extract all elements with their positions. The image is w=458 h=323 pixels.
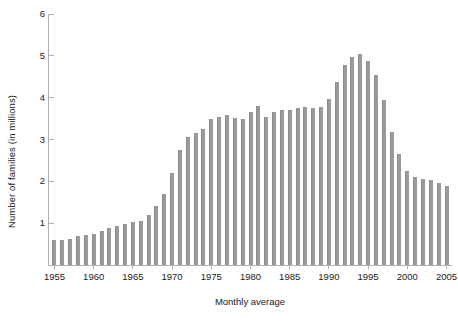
bar-1960 — [92, 234, 96, 265]
bar-1964 — [123, 224, 127, 265]
x-tick-label: 2000 — [387, 271, 427, 282]
x-tick-mark — [250, 265, 251, 269]
y-tick-label: 2 — [23, 175, 45, 187]
bar-1965 — [131, 222, 135, 265]
x-tick-mark — [93, 265, 94, 269]
bar-1989 — [319, 107, 323, 265]
bar-2005 — [445, 186, 449, 265]
x-tick-mark — [368, 265, 369, 269]
bar-1998 — [390, 132, 394, 265]
y-axis-title: Number of families (in millions) — [0, 0, 22, 323]
y-tick-label: 1 — [23, 217, 45, 229]
bar-series — [49, 14, 452, 265]
bar-2004 — [437, 183, 441, 265]
bar-1981 — [256, 106, 260, 265]
bar-2002 — [421, 179, 425, 265]
bar-1961 — [100, 231, 104, 265]
bar-1958 — [76, 236, 80, 265]
bar-2001 — [413, 177, 417, 265]
bar-1971 — [178, 150, 182, 265]
x-tick-label: 2005 — [427, 271, 458, 282]
bar-1970 — [170, 173, 174, 265]
bar-1993 — [350, 57, 354, 265]
plot-area: 123456 — [48, 14, 452, 266]
bar-1980 — [249, 112, 253, 265]
x-tick-mark — [54, 265, 55, 269]
x-tick-mark — [289, 265, 290, 269]
bar-1988 — [311, 108, 315, 265]
bar-1991 — [335, 82, 339, 265]
bar-1983 — [272, 112, 276, 265]
x-tick-label: 1965 — [113, 271, 153, 282]
bar-1982 — [264, 117, 268, 266]
x-tick-mark — [211, 265, 212, 269]
x-tick-mark — [446, 265, 447, 269]
bar-1962 — [107, 228, 111, 265]
x-tick-label: 1955 — [34, 271, 74, 282]
bar-2003 — [429, 180, 433, 265]
bar-1973 — [194, 133, 198, 265]
x-tick-label: 1960 — [74, 271, 114, 282]
x-tick-mark — [328, 265, 329, 269]
bar-1978 — [233, 118, 237, 265]
x-axis-ticks: 1955196019651970197519801985199019952000… — [48, 266, 452, 286]
bar-1995 — [366, 61, 370, 265]
bar-1997 — [382, 100, 386, 265]
bar-1963 — [115, 226, 119, 265]
y-tick-label: 3 — [23, 134, 45, 146]
x-tick-mark — [172, 265, 173, 269]
bar-1984 — [280, 110, 284, 265]
x-tick-label: 1975 — [191, 271, 231, 282]
bar-1992 — [343, 65, 347, 265]
bar-1957 — [68, 239, 72, 265]
bar-1974 — [201, 129, 205, 265]
bar-1999 — [397, 154, 401, 265]
bar-1972 — [186, 137, 190, 265]
y-tick-label: 4 — [23, 92, 45, 104]
bar-1990 — [327, 99, 331, 265]
y-tick-label: 5 — [23, 50, 45, 62]
bar-1969 — [162, 194, 166, 265]
bar-1987 — [303, 107, 307, 265]
bar-1956 — [60, 240, 64, 265]
x-tick-label: 1985 — [270, 271, 310, 282]
y-tick-label: 6 — [23, 8, 45, 20]
bar-1976 — [217, 117, 221, 266]
bar-1985 — [288, 110, 292, 265]
x-tick-label: 1990 — [309, 271, 349, 282]
bar-2000 — [405, 171, 409, 265]
bar-1994 — [358, 54, 362, 265]
bar-1975 — [209, 119, 213, 265]
bar-1966 — [139, 221, 143, 265]
x-tick-mark — [132, 265, 133, 269]
x-tick-label: 1980 — [231, 271, 271, 282]
x-tick-label: 1970 — [152, 271, 192, 282]
bar-1955 — [52, 240, 56, 265]
bar-1968 — [154, 206, 158, 265]
bar-1996 — [374, 75, 378, 265]
bar-1967 — [147, 215, 151, 265]
x-axis-title: Monthly average — [48, 296, 452, 307]
bar-1959 — [84, 235, 88, 265]
x-tick-mark — [407, 265, 408, 269]
bar-1986 — [296, 108, 300, 265]
bar-1979 — [241, 119, 245, 265]
x-tick-label: 1995 — [348, 271, 388, 282]
bar-1977 — [225, 115, 229, 265]
chart-figure: Number of families (in millions) 123456 … — [0, 0, 458, 323]
